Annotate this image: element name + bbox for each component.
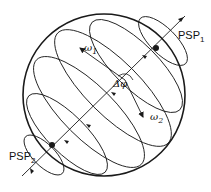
arrow-icon [64,140,69,144]
poincare-sphere-diagram: PSP1 PSP2 ω1 ω2 Δφ [0,0,211,192]
axis-arrow-bottom-icon [30,168,34,174]
psp1-label: PSP1 [178,29,205,44]
omega2-label: ω2 [150,111,163,125]
psp2-label: PSP2 [9,150,36,165]
omega1-label: ω1 [84,42,97,56]
psp2-dot [49,142,55,148]
axis-arrow-top-icon [178,17,184,22]
psp1-dot [153,45,159,51]
delta-phi-label: Δφ [112,78,127,89]
precession-ellipses [15,7,195,186]
precession-ellipse-4 [18,41,159,182]
arrow-icon [111,92,116,96]
